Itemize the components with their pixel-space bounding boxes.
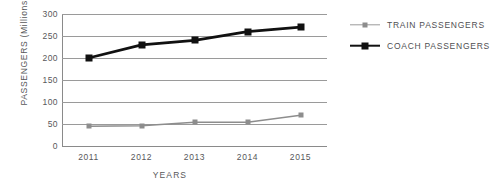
data-point-marker xyxy=(85,55,92,62)
legend-item-train[interactable]: TRAIN PASSENGERS xyxy=(350,14,489,35)
legend-item-coach[interactable]: COACH PASSENGERS xyxy=(350,35,489,56)
data-point-marker xyxy=(191,37,198,44)
y-axis-tick-label: 250 xyxy=(24,31,58,41)
chart-legend: TRAIN PASSENGERS COACH PASSENGERS xyxy=(350,14,489,56)
data-point-marker xyxy=(138,41,145,48)
x-axis-tick-label: 2013 xyxy=(172,152,218,162)
data-point-marker xyxy=(86,124,91,129)
data-point-marker xyxy=(298,113,303,118)
data-point-marker xyxy=(245,120,250,125)
y-axis-tick-label: 150 xyxy=(24,75,58,85)
data-point-marker xyxy=(297,24,304,31)
series-lines xyxy=(62,14,327,146)
data-point-marker xyxy=(244,28,251,35)
data-point-marker xyxy=(139,123,144,128)
x-axis-tick-label: 2015 xyxy=(278,152,324,162)
y-axis-tick-label: 0 xyxy=(24,141,58,151)
x-axis-title: YEARS xyxy=(0,170,340,180)
data-point-marker xyxy=(192,120,197,125)
plot-area xyxy=(62,14,327,146)
x-axis-tick-label: 2014 xyxy=(225,152,271,162)
gridline xyxy=(62,146,327,147)
x-axis-tick-label: 2012 xyxy=(119,152,165,162)
x-axis-tick-label: 2011 xyxy=(66,152,112,162)
legend-label-coach: COACH PASSENGERS xyxy=(387,41,490,51)
y-axis-tick-label: 50 xyxy=(24,119,58,129)
y-axis-tick-label: 200 xyxy=(24,53,58,63)
y-axis-tick-label: 100 xyxy=(24,97,58,107)
legend-swatch-train-icon xyxy=(350,19,380,31)
legend-label-train: TRAIN PASSENGERS xyxy=(387,20,485,30)
y-axis-tick-label: 300 xyxy=(24,9,58,19)
legend-swatch-coach-icon xyxy=(350,40,380,52)
